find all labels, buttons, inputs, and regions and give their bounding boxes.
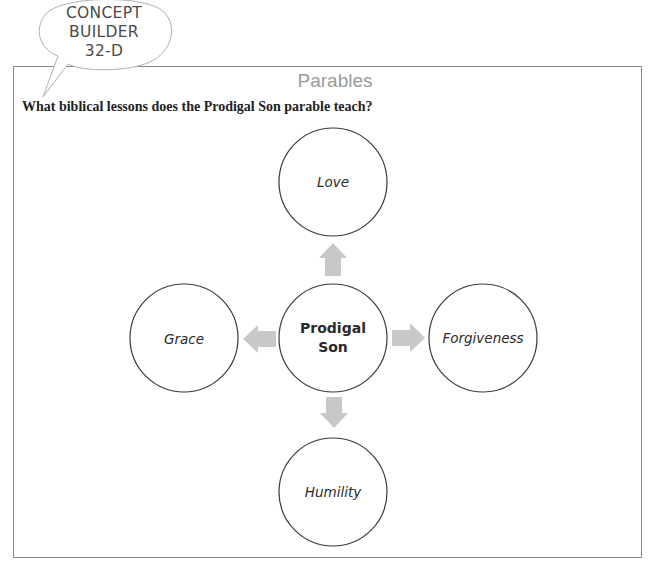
node-label-right: Forgiveness: [429, 330, 537, 346]
badge-line-2: BUILDER: [44, 23, 164, 42]
concept-builder-badge: CONCEPT BUILDER 32-D: [44, 4, 164, 61]
badge-line-3: 32-D: [44, 42, 164, 61]
node-label-left: Grace: [130, 331, 238, 347]
center-line-1: Prodigal: [279, 319, 387, 338]
node-label-top: Love: [279, 174, 387, 190]
center-line-2: Son: [279, 338, 387, 357]
node-label-center: Prodigal Son: [279, 319, 387, 357]
badge-line-1: CONCEPT: [44, 4, 164, 23]
section-title: Parables: [250, 70, 420, 92]
question-prompt: What biblical lessons does the Prodigal …: [22, 99, 373, 115]
node-label-bottom: Humility: [279, 484, 387, 500]
